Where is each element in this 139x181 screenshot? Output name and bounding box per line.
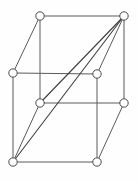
graph-vertex-front-top-left[interactable] [9,69,17,77]
graph-edge-e-depth-top-right [97,16,124,74]
graph-vertex-front-bottom-right[interactable] [93,158,101,166]
graph-vertex-back-top-left[interactable] [36,12,44,20]
cube-graph-figure [0,0,139,181]
graph-canvas [0,0,139,181]
graph-edge-e-depth-top-left [13,16,40,73]
graph-vertex-back-bottom-left[interactable] [36,99,44,107]
edge-layer [13,16,124,162]
graph-edge-e-front-top [13,73,97,74]
graph-edge-e-depth-bottom-right [97,103,124,162]
graph-edge-e-diagonal-short [40,16,124,103]
graph-vertex-back-top-right[interactable] [120,12,128,20]
graph-vertex-back-bottom-right[interactable] [120,99,128,107]
graph-vertex-front-top-right[interactable] [93,70,101,78]
graph-vertex-front-bottom-left[interactable] [9,158,17,166]
